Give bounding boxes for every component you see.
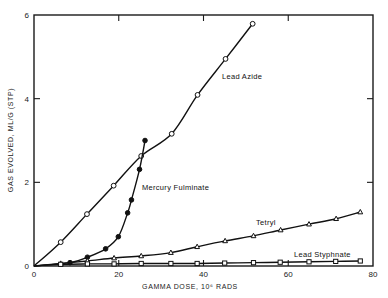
lead-styphnate-marker: [278, 260, 282, 264]
lead-azide-marker: [169, 131, 174, 136]
lead-styphnate-marker: [251, 261, 255, 265]
x-tick-label: 40: [199, 270, 208, 279]
lead-styphnate-marker: [358, 259, 362, 263]
lead-azide-marker: [111, 183, 116, 188]
tetryl-marker: [139, 253, 144, 257]
tetryl-marker: [358, 209, 363, 213]
tetryl-marker: [223, 238, 228, 242]
series-mercury-fulminate: Mercury Fulminate: [34, 138, 209, 266]
mercury-fulminate-line: [34, 141, 145, 267]
lead-azide-label: Lead Azide: [222, 72, 262, 81]
lead-styphnate-label: Lead Styphnate: [294, 250, 351, 259]
mercury-fulminate-marker: [103, 247, 108, 252]
y-tick-label: 4: [25, 95, 30, 104]
mercury-fulminate-marker: [129, 198, 134, 203]
lead-styphnate-marker: [195, 261, 199, 265]
tetryl-marker: [195, 244, 200, 248]
lead-styphnate-marker: [59, 262, 63, 266]
plot-frame: [34, 15, 373, 266]
y-tick-label: 6: [25, 11, 30, 20]
x-axis-title: GAMMA DOSE, 10⁶ RADS: [142, 283, 238, 290]
plot-border: [34, 15, 373, 266]
x-tick-label: 0: [32, 270, 37, 279]
lead-azide-marker: [85, 212, 90, 217]
tetryl-marker: [278, 227, 283, 231]
mercury-fulminate-label: Mercury Fulminate: [142, 183, 209, 192]
y-axis-title: GAS EVOLVED, ML/G (STP): [7, 88, 15, 192]
tetryl-marker: [307, 222, 312, 226]
axis-ticks: 0204060800246: [25, 11, 378, 279]
lead-azide-marker: [223, 57, 228, 62]
lead-styphnate-marker: [223, 261, 227, 265]
tetryl-label: Tetryl: [256, 218, 276, 227]
series-lead-azide: Lead Azide: [34, 21, 262, 266]
lead-styphnate-marker: [85, 262, 89, 266]
x-tick-label: 60: [284, 270, 293, 279]
y-tick-label: 0: [25, 262, 30, 271]
lead-azide-marker: [250, 21, 255, 26]
lead-styphnate-marker: [112, 262, 116, 266]
gas-evolution-chart: 0204060800246 Lead AzideMercury Fulminat…: [0, 0, 388, 298]
mercury-fulminate-marker: [137, 167, 142, 172]
tetryl-marker: [112, 255, 117, 259]
tetryl-marker: [168, 250, 173, 254]
lead-azide-line: [34, 24, 253, 266]
y-tick-label: 2: [25, 178, 30, 187]
mercury-fulminate-marker: [143, 138, 148, 143]
lead-styphnate-marker: [307, 260, 311, 264]
tetryl-marker: [334, 216, 339, 220]
lead-styphnate-marker: [334, 259, 338, 263]
lead-azide-marker: [195, 93, 200, 98]
lead-styphnate-marker: [139, 261, 143, 265]
series-group: Lead AzideMercury FulminateTetrylLead St…: [34, 21, 363, 266]
tetryl-marker: [251, 233, 256, 237]
lead-azide-marker: [58, 240, 63, 245]
x-tick-label: 20: [114, 270, 123, 279]
lead-styphnate-marker: [169, 261, 173, 265]
mercury-fulminate-marker: [125, 211, 130, 216]
x-tick-label: 80: [369, 270, 378, 279]
mercury-fulminate-marker: [116, 234, 121, 239]
